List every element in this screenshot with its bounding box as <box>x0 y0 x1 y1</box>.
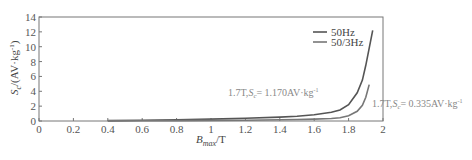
y-tick-label: 4 <box>31 85 37 97</box>
legend-label: 50/3Hz <box>331 36 364 48</box>
x-tick-label: 0.2 <box>67 123 81 135</box>
y-tick-label: 12 <box>25 26 36 38</box>
y-tick-label: 8 <box>31 56 37 68</box>
x-tick-label: 1.2 <box>239 123 253 135</box>
x-tick-label: 1.4 <box>273 123 287 135</box>
x-tick-label: 1.8 <box>342 123 356 135</box>
x-tick-label: 0.8 <box>170 123 184 135</box>
y-tick-label: 10 <box>25 41 37 53</box>
x-tick-label: 0 <box>36 123 42 135</box>
y-axis-label: Sc/(AV·kg-1) <box>8 40 23 95</box>
x-axis-label: Bmax/T <box>196 133 226 148</box>
y-tick-label: 6 <box>31 70 37 82</box>
legend: 50Hz50/3Hz <box>313 26 364 48</box>
chart: 00.20.40.60.811.21.41.61.82 02468101214 … <box>0 0 472 160</box>
y-tick-label: 0 <box>31 115 37 127</box>
y-tick-label: 2 <box>31 100 37 112</box>
annotation-label: 1.7T,Sc= 1.170AV·kg-1 <box>228 87 319 100</box>
x-tick-label: 0.4 <box>101 123 115 135</box>
x-tick-label: 0.6 <box>135 123 149 135</box>
x-tick-label: 2 <box>380 123 386 135</box>
annotation-label: 1.7T,Sc= 0.335AV·kg-1 <box>372 98 463 111</box>
x-tick-label: 1.6 <box>307 123 321 135</box>
y-tick-label: 14 <box>25 11 37 23</box>
x-tick-label: 1 <box>208 123 214 135</box>
